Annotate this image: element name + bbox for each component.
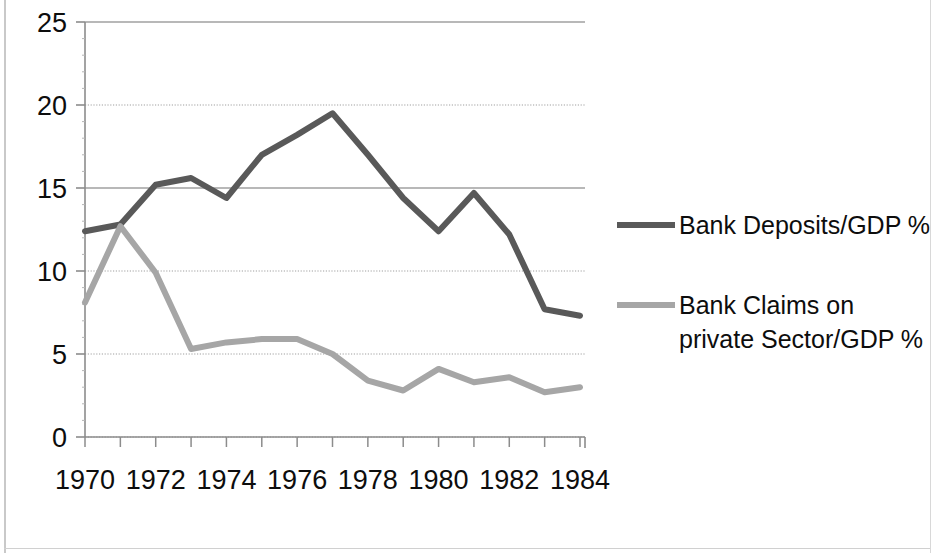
legend-label-bank-deposits: Bank Deposits/GDP % <box>679 211 930 239</box>
chart-figure: 0510152025 19701972197419761978198019821… <box>0 0 934 553</box>
y-tick-label-5: 5 <box>52 340 67 370</box>
x-tick-label-1978: 1978 <box>338 465 398 495</box>
x-tick-label-1970: 1970 <box>55 465 115 495</box>
y-tick-label-0: 0 <box>52 423 67 453</box>
x-axis-tick-labels: 19701972197419761978198019821984 <box>55 465 610 495</box>
y-axis-tick-labels: 0510152025 <box>37 8 67 453</box>
legend-label-bank-claims: Bank Claims on <box>679 291 854 319</box>
series-line-bank-claims <box>85 226 580 392</box>
data-series-group <box>85 113 580 392</box>
y-tick-label-10: 10 <box>37 257 67 287</box>
line-chart: 0510152025 19701972197419761978198019821… <box>0 0 934 553</box>
x-tick-label-1976: 1976 <box>267 465 327 495</box>
x-tick-label-1980: 1980 <box>409 465 469 495</box>
y-tick-label-20: 20 <box>37 91 67 121</box>
chart-legend: Bank Deposits/GDP %Bank Claims onprivate… <box>617 211 930 353</box>
legend-label-bank-claims-line2: private Sector/GDP % <box>679 325 923 353</box>
x-axis-ticks <box>85 437 580 447</box>
y-tick-label-15: 15 <box>37 174 67 204</box>
x-tick-label-1982: 1982 <box>479 465 539 495</box>
x-tick-label-1974: 1974 <box>196 465 256 495</box>
x-tick-label-1984: 1984 <box>550 465 610 495</box>
y-tick-label-25: 25 <box>37 8 67 38</box>
x-tick-label-1972: 1972 <box>126 465 186 495</box>
